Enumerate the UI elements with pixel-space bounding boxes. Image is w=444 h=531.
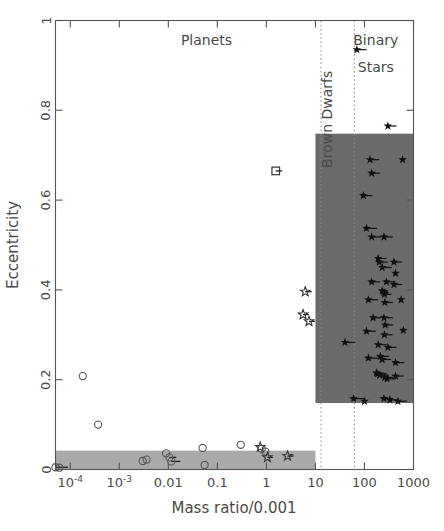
open-circle-marker [95,421,102,428]
y-tick-label: 1 [39,16,54,24]
brown-dwarfs-label: Brown Dwarfs [319,71,335,168]
data-point [79,373,86,380]
open-circle-marker [237,441,244,448]
filled-star-marker [383,121,392,129]
circularized-planet-band [56,451,316,470]
data-point [256,442,266,451]
binary-stars-label-line1: Binary [353,32,398,48]
data-point [272,167,282,175]
x-tick-label: 10 [307,475,324,490]
x-tick-label: 1000 [397,475,430,490]
data-point [199,444,206,451]
x-tick-label: 0.01 [154,475,183,490]
data-point [383,121,396,129]
shaded-regions [56,134,414,470]
figure-root: 10-410-30.010.11101001000 00.20.40.60.81… [0,0,444,531]
y-tick-label: 0 [39,465,54,473]
y-tick-label: 0.8 [39,100,54,121]
data-point [95,421,102,428]
y-tick-label: 0.6 [39,190,54,211]
x-tick-label: 10-3 [107,474,133,490]
open-star-marker [256,442,266,451]
x-axis-title: Mass ratio/0.001 [171,499,296,517]
x-tick-label: 0.1 [207,475,228,490]
planets-label: Planets [181,32,232,48]
x-tick-label: 100 [352,475,377,490]
y-tick-label: 0.4 [39,280,54,301]
scatter-plot-canvas: 10-410-30.010.11101001000 00.20.40.60.81… [0,0,444,531]
data-point [298,310,308,319]
open-circle-marker [199,444,206,451]
x-tick-label: 1 [262,475,270,490]
binary-stars-label-line2: Stars [358,59,394,75]
y-axis-tick-labels: 00.20.40.60.81 [39,16,54,473]
series-brown-dwarf-candidates [256,287,315,462]
data-point [301,287,312,296]
x-axis-tick-labels: 10-410-30.010.11101001000 [57,474,430,490]
open-circle-marker [79,373,86,380]
y-tick-label: 0.2 [39,369,54,390]
y-axis-title: Eccentricity [4,201,22,289]
data-point [237,441,244,448]
series-transiting-companion [272,167,282,175]
x-tick-label: 10-4 [57,474,83,490]
